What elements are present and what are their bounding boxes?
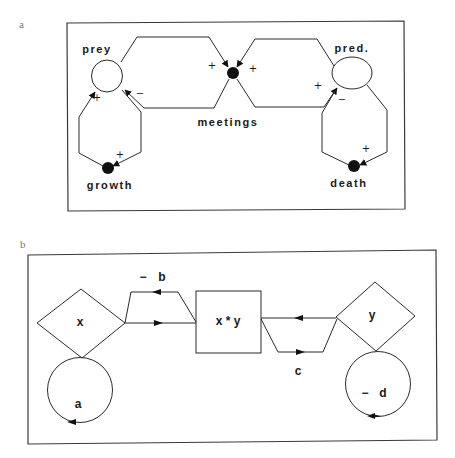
growth-to-prey-arrow	[79, 92, 103, 166]
loop-a-label: a	[75, 397, 82, 411]
sign-death-to-pred: −	[338, 94, 346, 105]
death-node	[348, 160, 360, 172]
product-label: x * y	[216, 314, 241, 328]
sign-meetings-to-pred: +	[314, 80, 322, 91]
growth-node	[102, 162, 114, 174]
prey-node	[92, 60, 123, 92]
loop-d-label: d	[379, 386, 386, 400]
growth-label: growth	[87, 179, 133, 191]
flow-b-arrow-left-icon	[152, 289, 161, 295]
flow-c-label: c	[295, 364, 302, 378]
predator-node	[332, 57, 372, 89]
loop-d	[346, 352, 411, 417]
panel-b: b x a − b x * y c y − d	[20, 238, 437, 444]
loop-d-arrow-tail-icon	[372, 414, 381, 418]
panel-a: a prey pred. meetings growth death + − +…	[19, 18, 405, 211]
meetings-label: meetings	[197, 116, 258, 128]
prey-label: prey	[82, 43, 112, 55]
flow-b-return	[125, 292, 196, 323]
y-label: y	[369, 308, 376, 322]
sign-meetings-to-prey: −	[136, 88, 144, 99]
panel-b-letter: b	[20, 238, 26, 250]
death-label: death	[330, 177, 367, 189]
sign-pred-to-death: +	[362, 143, 370, 154]
panel-a-letter: a	[19, 18, 24, 30]
flow-x-arrow-right-icon	[154, 320, 163, 326]
diagram-canvas: a prey pred. meetings growth death + − +…	[0, 0, 455, 458]
sign-prey-to-meetings: +	[208, 60, 216, 71]
y-node	[336, 282, 415, 351]
flow-b-sign: −	[139, 270, 146, 284]
flow-c-return	[261, 319, 337, 352]
meetings-node	[227, 67, 239, 79]
sign-prey-to-growth: +	[116, 149, 124, 160]
loop-d-sign: −	[361, 386, 368, 400]
flow-c-arrow-left-icon	[294, 315, 303, 321]
sign-pred-to-meetings: +	[249, 63, 257, 74]
loop-a	[48, 358, 113, 423]
predator-label: pred.	[335, 42, 370, 54]
flow-c-arrow-right-icon	[296, 349, 305, 355]
flow-b-label: b	[158, 270, 165, 284]
sign-growth-to-prey: +	[93, 92, 101, 103]
x-label: x	[77, 315, 84, 329]
